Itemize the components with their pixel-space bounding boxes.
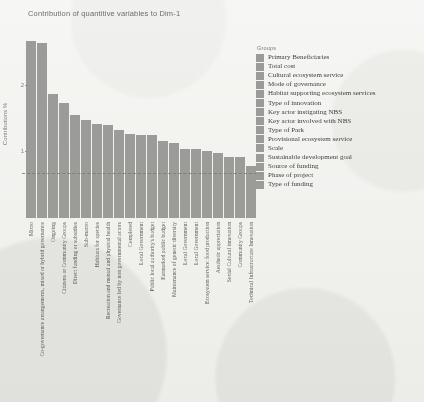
legend-item[interactable]: Scale <box>256 144 422 153</box>
legend-item-label: Habitat supporting ecosystem services <box>268 90 376 97</box>
x-axis-tick-label: Recreation and mental and physical healt… <box>105 222 111 319</box>
legend-item[interactable]: Mode of governance <box>256 80 422 89</box>
legend-item[interactable]: Key actor involved with NBS <box>256 117 422 126</box>
x-axis-tick-label: Local Government <box>193 222 199 265</box>
x-axis-tick: Local Government <box>136 220 146 350</box>
x-axis-tick-label: Completed <box>127 222 133 247</box>
legend-item-label: Type of funding <box>268 181 313 188</box>
x-axis-tick-label: Ongoing <box>50 222 56 242</box>
x-axis-tick-label: Technical Infrastructure Innovation <box>248 222 254 303</box>
legend-swatch-icon <box>256 108 264 116</box>
x-axis-tick-label: Habitats for species <box>94 222 100 267</box>
chart-page: Contribution of quantitive variables to … <box>0 0 424 402</box>
legend-item-label: Provisional ecosystem service <box>268 136 352 143</box>
x-axis-tick-label: Direct funding or subsidies <box>72 222 78 284</box>
bar <box>169 143 179 218</box>
legend-item[interactable]: Habitat supporting ecosystem services <box>256 89 422 98</box>
legend: Groups Primary BeneficiariesTotal costCu… <box>256 45 422 189</box>
legend-item[interactable]: Cultural ecosystem service <box>256 71 422 80</box>
x-axis-tick: Aesthetic appreciation <box>213 220 223 350</box>
x-axis-tick-label: Micro <box>28 222 34 236</box>
x-axis-tick: Habitats for species <box>92 220 102 350</box>
x-axis-tick-label: Citizens or Community Groups <box>61 222 67 294</box>
legend-item[interactable]: Sustainable development goal <box>256 153 422 162</box>
x-axis-tick: Local Government <box>191 220 201 350</box>
x-axis-tick-label: Governance led by non governmental actor… <box>116 222 122 323</box>
bar <box>158 141 168 218</box>
legend-item[interactable]: Type of Park <box>256 126 422 135</box>
legend-swatch-icon <box>256 81 264 89</box>
x-axis-tick-label: Maintenance of genetic diversity <box>171 222 177 297</box>
legend-swatch-icon <box>256 181 264 189</box>
x-axis-tick: Governance led by non governmental actor… <box>114 220 124 350</box>
y-axis-tick: 2 <box>21 82 24 88</box>
legend-swatch-icon <box>256 90 264 98</box>
legend-item-label: Type of Park <box>268 127 304 134</box>
bar <box>92 124 102 218</box>
legend-item[interactable]: Total cost <box>256 62 422 71</box>
legend-swatch-icon <box>256 117 264 125</box>
legend-item-label: Sustainable development goal <box>268 154 352 161</box>
bar <box>37 43 47 218</box>
legend-swatch-icon <box>256 99 264 107</box>
x-axis-tick: Social Cultural innovation <box>224 220 234 350</box>
bar <box>114 130 124 218</box>
legend-item[interactable]: Type of innovation <box>256 98 422 107</box>
legend-item[interactable]: Primary Beneficiaries <box>256 53 422 62</box>
bar <box>103 125 113 218</box>
bar <box>136 135 146 218</box>
legend-item-label: Phase of project <box>268 172 313 179</box>
legend-item-label: Key actor involved with NBS <box>268 118 351 125</box>
bar-series <box>26 28 256 218</box>
legend-swatch-icon <box>256 163 264 171</box>
bar <box>202 151 212 218</box>
y-axis-tick: 1 <box>21 148 24 154</box>
legend-item[interactable]: Key actor instigating NBS <box>256 108 422 117</box>
x-axis-labels: MicroCo-governance arrangements, mixed o… <box>26 220 256 350</box>
y-axis: Contributions % 12 <box>0 28 26 218</box>
legend-swatch-icon <box>256 63 264 71</box>
legend-item-label: Scale <box>268 145 283 152</box>
legend-item[interactable]: Type of funding <box>256 180 422 189</box>
x-axis-tick-label: Social Cultural innovation <box>226 222 232 282</box>
x-axis-tick-label: Local Government <box>138 222 144 265</box>
bar <box>59 103 69 218</box>
bar <box>81 120 91 218</box>
legend-item[interactable]: Phase of project <box>256 171 422 180</box>
legend-items: Primary BeneficiariesTotal costCultural … <box>256 53 422 189</box>
legend-item[interactable]: Source of funding <box>256 162 422 171</box>
x-axis-tick-label: Sub-macro <box>83 222 89 247</box>
chart-title: Contribution of quantitive variables to … <box>28 9 180 18</box>
x-axis-tick-label: Aesthetic appreciation <box>215 222 221 273</box>
legend-item-label: Source of funding <box>268 163 319 170</box>
x-axis-tick: Citizens or Community Groups <box>59 220 69 350</box>
bar <box>147 135 157 218</box>
legend-item[interactable]: Provisional ecosystem service <box>256 135 422 144</box>
bar <box>26 41 36 218</box>
legend-item-label: Cultural ecosystem service <box>268 72 343 79</box>
bar <box>70 115 80 218</box>
bar <box>48 94 58 218</box>
x-axis-tick: Technical Infrastructure Innovation <box>246 220 256 350</box>
legend-item-label: Primary Beneficiaries <box>268 54 329 61</box>
x-axis-tick-label: Co-governance arrangements, mixed or hyb… <box>39 222 45 356</box>
x-axis-tick-label: Public local authority's budget <box>149 222 155 292</box>
x-axis-tick: Ecosystem service: food production <box>202 220 212 350</box>
legend-swatch-icon <box>256 126 264 134</box>
plot-area <box>26 28 256 218</box>
x-axis-tick: Maintenance of genetic diversity <box>169 220 179 350</box>
x-axis-tick: Local Government <box>180 220 190 350</box>
legend-title: Groups <box>257 45 422 51</box>
legend-swatch-icon <box>256 144 264 152</box>
legend-item-label: Total cost <box>268 63 295 70</box>
legend-item-label: Key actor instigating NBS <box>268 109 342 116</box>
x-axis-tick: Completed <box>125 220 135 350</box>
x-axis-tick: Sub-macro <box>81 220 91 350</box>
bar <box>224 157 234 218</box>
legend-swatch-icon <box>256 72 264 80</box>
x-axis-tick: Micro <box>26 220 36 350</box>
bar <box>180 149 190 218</box>
x-axis-tick: Co-governance arrangements, mixed or hyb… <box>37 220 47 350</box>
x-axis-tick-label: Local Government <box>182 222 188 265</box>
expected-value-reference-line <box>22 173 262 174</box>
